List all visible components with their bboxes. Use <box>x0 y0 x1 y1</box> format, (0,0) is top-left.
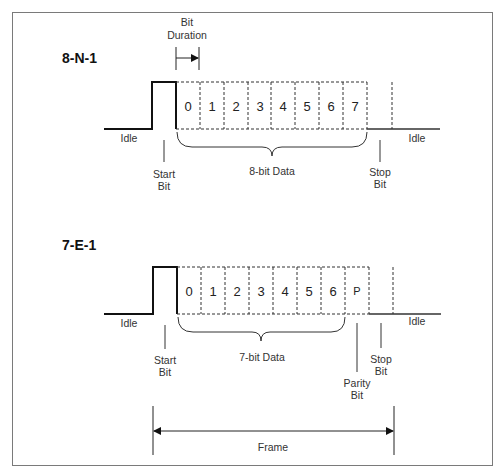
bit-cell-labels: 0 1 2 3 4 5 6 7 <box>184 99 358 114</box>
format-7e1: 7-E-1 0 1 2 3 4 5 6 P Idle Idle <box>62 237 441 401</box>
idle-label-left: Idle <box>121 132 138 144</box>
bit-cell: 5 <box>305 284 312 299</box>
data-brace <box>178 317 345 341</box>
bit-cell: 4 <box>281 284 288 299</box>
stop-bit-label-line2: Bit <box>375 365 387 377</box>
data-brace <box>177 132 367 156</box>
start-bit-waveform <box>104 82 176 129</box>
format-title: 8-N-1 <box>62 50 97 66</box>
bit-cell: 3 <box>257 284 264 299</box>
bit-cell: 6 <box>327 99 334 114</box>
idle-label-right: Idle <box>409 132 426 144</box>
stop-bit-label-line2: Bit <box>374 178 386 190</box>
bit-cell: 1 <box>209 284 216 299</box>
start-bit-label-line2: Bit <box>158 180 170 192</box>
uart-frame-diagram: Bit Duration 8-N-1 0 1 2 3 <box>0 0 500 473</box>
idle-label-right: Idle <box>409 315 426 327</box>
bit-cell: 5 <box>303 99 310 114</box>
data-label: 7-bit Data <box>239 351 285 363</box>
bit-cell: 3 <box>256 99 263 114</box>
idle-label-left: Idle <box>121 317 138 329</box>
bit-duration-annotation: Bit Duration <box>167 16 207 70</box>
parity-bit-label-line2: Bit <box>351 389 363 401</box>
stop-bit-label-line1: Stop <box>369 166 391 178</box>
bit-cell: 0 <box>185 284 192 299</box>
stop-bit-label-line1: Stop <box>370 353 392 365</box>
bit-duration-label-line1: Bit <box>181 16 193 28</box>
start-bit-waveform <box>104 267 177 314</box>
bit-cell-labels: 0 1 2 3 4 5 6 P <box>185 284 360 299</box>
format-8n1: 8-N-1 0 1 2 3 4 5 6 7 Idle <box>62 50 440 192</box>
bit-cell: 1 <box>208 99 215 114</box>
bit-cell: 2 <box>232 99 239 114</box>
bit-cell: 2 <box>233 284 240 299</box>
frame-label: Frame <box>258 441 288 453</box>
format-title: 7-E-1 <box>62 237 96 253</box>
start-bit-label-line1: Start <box>154 354 176 366</box>
bit-cell: 0 <box>184 99 191 114</box>
start-bit-label-line2: Bit <box>159 366 171 378</box>
bit-cell: 4 <box>279 99 286 114</box>
data-label: 8-bit Data <box>249 165 295 177</box>
parity-bit-label-line1: Parity <box>344 377 372 389</box>
frame-span: Frame <box>153 406 394 455</box>
start-bit-label-line1: Start <box>153 168 175 180</box>
bit-duration-label-line2: Duration <box>167 29 207 41</box>
bit-cell: 6 <box>329 284 336 299</box>
parity-cell: P <box>353 285 360 297</box>
bit-cell: 7 <box>351 99 358 114</box>
